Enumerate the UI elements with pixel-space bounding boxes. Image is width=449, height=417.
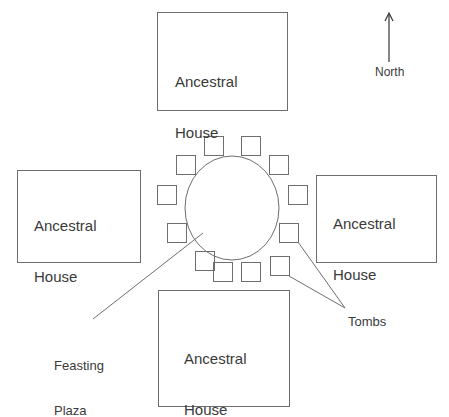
tomb [280,224,299,243]
tomb [271,257,290,276]
plaza-label-line: Feasting [54,359,104,374]
house-label-line: House [333,266,396,283]
feasting-plaza [185,156,279,260]
north-label: North [375,66,404,80]
tombs-label: Tombs [348,315,386,330]
tomb [196,252,215,271]
tomb [242,137,261,156]
tomb [270,156,289,175]
plaza-label-line: Plaza [54,404,104,417]
tomb [168,224,187,243]
house-label-line: Ancestral [34,217,97,234]
house-label-line: House [34,268,97,285]
house-label-line: Ancestral [333,215,396,232]
house-label-line: House [184,401,247,417]
house-label-north: Ancestral House [175,38,238,159]
tomb [158,186,177,205]
house-label-line: House [175,124,238,141]
feasting-plaza-label: Feasting Plaza [54,329,104,417]
house-label-west: Ancestral House [34,182,97,303]
tomb [242,263,261,282]
tomb [214,263,233,282]
house-label-east: Ancestral House [333,180,396,301]
north-arrow-icon [385,13,393,62]
house-label-south: Ancestral House [184,315,247,417]
house-label-line: Ancestral [184,350,247,367]
house-label-line: Ancestral [175,73,238,90]
plaza-leader-line [93,233,203,319]
tomb [289,186,308,205]
